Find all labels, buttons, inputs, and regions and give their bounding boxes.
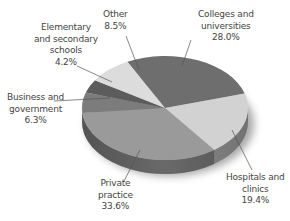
pie-top <box>82 56 248 160</box>
label-colleges: Colleges and universities 28.0% <box>198 9 254 44</box>
label-elementary: Elementary and secondary schools 4.2% <box>34 22 98 68</box>
label-private-practice: Private practice 33.6% <box>98 178 133 213</box>
label-hospitals: Hospitals and clinics 19.4% <box>226 172 285 207</box>
label-business: Business and government 6.3% <box>7 92 64 127</box>
label-other: Other 8.5% <box>103 9 128 32</box>
